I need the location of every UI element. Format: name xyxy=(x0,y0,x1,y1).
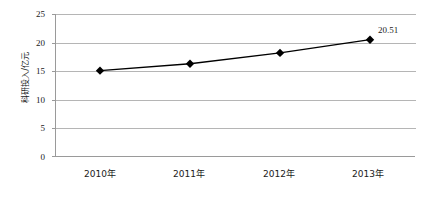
x-axis-tick-labels: 2010年 2011年 2012年 2013年 xyxy=(0,0,430,198)
x-tick-label-2013: 2013年 xyxy=(352,167,384,180)
x-tick-label-2011: 2011年 xyxy=(173,167,205,180)
x-tick-label-2012: 2012年 xyxy=(263,167,295,180)
line-chart: 科研投入/亿元 0 5 10 15 20 25 20.51 2010年 2011… xyxy=(0,0,430,198)
x-tick-label-2010: 2010年 xyxy=(84,167,116,180)
